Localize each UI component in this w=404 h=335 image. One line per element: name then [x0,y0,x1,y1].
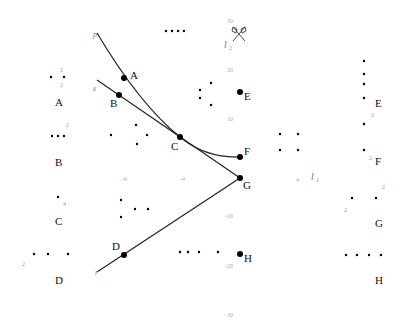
point-label-b: B [110,97,117,109]
right-legend-f: 2 F [363,123,381,167]
svg-text:H: H [375,274,383,286]
svg-text:l: l [224,39,227,50]
point-label-a: A [130,69,138,81]
curve-label-r: r [95,268,99,277]
tick-y-30: 30 [227,18,233,24]
crossed-flags-icon [232,27,246,41]
diagram-canvas: p s r A B C D E F G H 30 20 10 -10 -20 -… [0,0,404,335]
tick-y-neg10: -10 [225,213,233,219]
svg-text:C: C [55,215,62,227]
svg-text:B: B [55,156,62,168]
tick-y-neg20: -20 [225,263,233,269]
svg-text:G: G [375,217,383,229]
tick-y-10: 10 [227,116,233,122]
axis-label-l2: l 2 [224,39,232,51]
point-label-e: E [244,90,251,102]
point-label-d: D [112,240,120,252]
left-legend-a: 2 2 A [50,67,65,108]
tick-x-neg4: -4 [180,176,185,182]
svg-text:2: 2 [371,112,374,118]
svg-text:D: D [55,274,63,286]
right-legend: E 2 2 F 2 2 G H [344,60,385,286]
svg-text:F: F [375,155,381,167]
svg-text:E: E [375,97,382,109]
svg-text:2: 2 [369,155,372,161]
point-h [237,251,243,257]
svg-text:2: 2 [382,184,385,190]
svg-text:2: 2 [344,207,347,213]
svg-text:2: 2 [60,67,63,73]
right-legend-e: E 2 [363,60,382,118]
axis-label-l1: l 1 [311,171,319,183]
point-label-g: G [243,179,251,191]
curve-label-p: p [92,30,97,39]
diagram-svg: p s r A B C D E F G H 30 20 10 -10 -20 -… [0,0,404,335]
svg-text:2: 2 [229,45,232,51]
curve-label-s: s [93,84,96,93]
svg-text:l: l [311,171,314,182]
tick-y-20: 20 [227,67,233,73]
svg-text:2: 2 [22,261,25,267]
tick-y-neg30: -30 [225,312,233,318]
right-legend-h: H [345,254,383,286]
left-legend-b: 2 B [51,122,69,168]
left-legend: 2 2 A 2 B 4 C 2 D [22,67,69,286]
point-label-h: H [244,252,252,264]
left-legend-d: 2 D [22,253,69,286]
tick-x-neg6: -6 [122,176,127,182]
svg-text:4: 4 [63,201,66,207]
left-legend-c: 4 C [55,196,66,227]
point-e [237,89,243,95]
svg-text:A: A [55,96,63,108]
point-label-f: F [244,145,250,157]
line-r [97,178,240,272]
point-d [121,252,127,258]
point-a [121,75,127,81]
svg-text:2: 2 [66,122,69,128]
tick-x-4: 4 [296,177,299,183]
svg-text:2: 2 [60,82,63,88]
point-label-c: C [171,140,178,152]
svg-text:1: 1 [316,177,319,183]
scatter-dots [110,30,299,253]
point-f [237,154,243,160]
right-legend-g: 2 2 G [344,184,385,229]
